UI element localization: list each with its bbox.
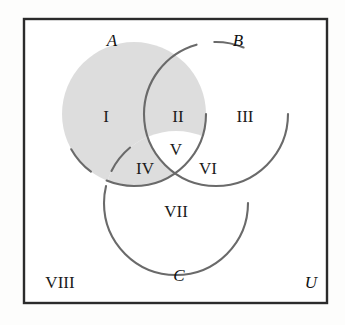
region-label-V: V [170, 140, 183, 159]
set-label-U: U [305, 273, 319, 292]
shaded-region-group [24, 19, 327, 303]
set-label-B: B [233, 31, 244, 50]
set-label-A: A [106, 31, 118, 50]
region-label-VIII: VIII [45, 273, 75, 292]
region-label-IV: IV [136, 159, 155, 178]
region-label-VI: VI [199, 159, 217, 178]
region-label-VII: VII [164, 202, 188, 221]
venn-diagram-figure: two ru sum pb [0, 0, 345, 325]
region-label-I: I [103, 107, 109, 126]
venn-svg-canvas: I II III IV V VI VII VIII A B C U [0, 0, 345, 325]
region-label-II: II [172, 107, 184, 126]
region-label-III: III [237, 107, 254, 126]
set-label-C: C [173, 266, 185, 285]
